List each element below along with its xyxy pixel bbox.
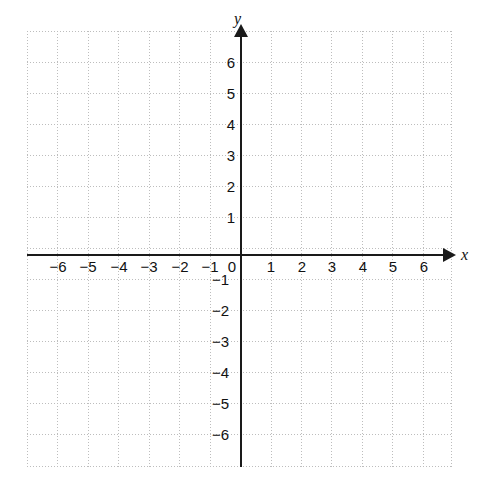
- x-tick-label-5: 5: [380, 258, 406, 275]
- x-axis-line: [27, 254, 448, 256]
- y-tick-label--2: −2: [203, 302, 229, 319]
- y-tick-label-1: 1: [209, 209, 235, 226]
- y-tick-label-3: 3: [209, 147, 235, 164]
- x-axis-arrow-icon: [443, 248, 456, 262]
- grid-line-vertical: [271, 31, 272, 467]
- grid-line-vertical: [57, 31, 58, 467]
- x-axis-label: x: [461, 246, 468, 264]
- grid-line-vertical: [27, 31, 28, 467]
- x-tick-label-6: 6: [411, 258, 437, 275]
- y-tick-label--4: −4: [203, 364, 229, 381]
- y-tick-label--5: −5: [203, 395, 229, 412]
- y-tick-label-2: 2: [209, 178, 235, 195]
- grid-line-vertical: [392, 31, 393, 467]
- grid-line-vertical: [423, 31, 424, 467]
- y-tick-label-4: 4: [209, 116, 235, 133]
- x-tick-label--4: −4: [106, 258, 132, 275]
- grid-line-vertical: [149, 31, 150, 467]
- grid-line-vertical: [331, 31, 332, 467]
- y-tick-label--6: −6: [203, 426, 229, 443]
- grid-line-vertical: [301, 31, 302, 467]
- x-tick-label--3: −3: [136, 258, 162, 275]
- x-tick-label-2: 2: [289, 258, 315, 275]
- y-axis-label: y: [234, 10, 241, 28]
- grid-line-vertical: [88, 31, 89, 467]
- y-axis-line: [240, 36, 242, 467]
- y-tick-label-6: 6: [209, 54, 235, 71]
- x-tick-label--5: −5: [75, 258, 101, 275]
- x-tick-label-1: 1: [258, 258, 284, 275]
- x-tick-label-4: 4: [350, 258, 376, 275]
- x-tick-label--6: −6: [45, 258, 71, 275]
- y-tick-label-5: 5: [209, 85, 235, 102]
- grid-line-vertical: [179, 31, 180, 467]
- y-tick-label--1: −1: [203, 271, 229, 288]
- x-tick-label--2: −2: [167, 258, 193, 275]
- coordinate-plane-figure: x y −6 −5 −4 −3 −2 −1 1 2 3 4 5 6 0 6 5 …: [0, 0, 480, 484]
- grid-line-vertical: [362, 31, 363, 467]
- grid-line-vertical: [118, 31, 119, 467]
- x-tick-label-3: 3: [319, 258, 345, 275]
- y-tick-label--3: −3: [203, 333, 229, 350]
